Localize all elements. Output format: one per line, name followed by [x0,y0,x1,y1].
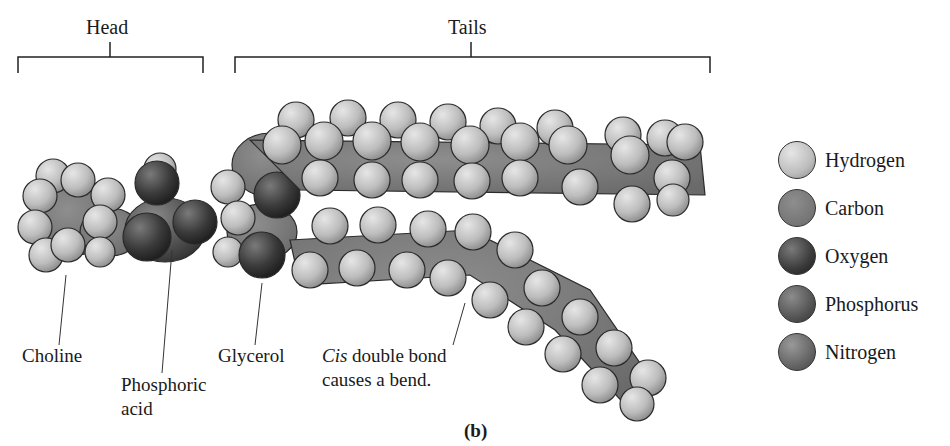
phosphorus-atom-icon [778,285,816,323]
head-bracket [18,42,203,73]
legend-item-phosphorus: Phosphorus [778,280,918,328]
panel-label: (b) [464,420,487,442]
phosphoric-acid-label-line2: acid [121,398,153,420]
cis-bond-label-line2: causes a bend. [322,369,431,391]
saturated-tail [250,100,705,222]
legend-item-oxygen: Oxygen [778,232,918,280]
carbon-atom-icon [778,189,816,227]
phosphoric-acid-label-line1: Phosphoric [121,374,207,396]
legend: Hydrogen Carbon Oxygen Phosphorus Nitrog… [778,136,918,376]
choline-label: Choline [22,345,82,367]
phosphate-group [123,153,217,262]
oxygen-atom-icon [778,237,816,275]
hydrogen-atom-icon [778,141,816,179]
choline-group [18,159,140,272]
legend-item-hydrogen: Hydrogen [778,136,918,184]
nitrogen-atom-icon [778,333,816,371]
cis-line1-rest: double bond [347,345,446,366]
legend-item-nitrogen: Nitrogen [778,328,918,376]
cis-bond-label-line1: Cis double bond [322,345,447,367]
cis-italic: Cis [322,345,347,366]
glycerol-label: Glycerol [218,345,284,367]
legend-item-carbon: Carbon [778,184,918,232]
tails-bracket [235,42,710,73]
